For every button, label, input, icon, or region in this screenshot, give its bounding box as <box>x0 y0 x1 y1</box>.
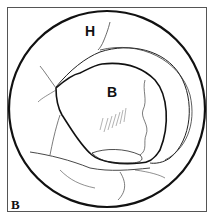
label-h: H <box>85 24 95 38</box>
vessel-line <box>30 152 150 170</box>
central-region-boundary <box>56 63 166 163</box>
vessel-line <box>50 115 60 155</box>
inner-irregular-line <box>140 80 147 155</box>
label-b: B <box>107 85 117 99</box>
vessel-line <box>40 66 56 88</box>
outer-arc-line <box>100 47 192 160</box>
panel-label: B <box>11 198 20 211</box>
vessel-line <box>38 90 56 102</box>
vessel-line <box>98 22 110 50</box>
vessel-line <box>60 170 95 188</box>
hatching <box>100 108 126 132</box>
vessel-line <box>135 170 165 178</box>
field-of-view-circle <box>9 11 205 207</box>
outer-boundary-line <box>56 48 189 163</box>
vessel-line <box>118 172 125 200</box>
illustration <box>0 0 214 219</box>
inner-lobe-line <box>92 149 142 163</box>
